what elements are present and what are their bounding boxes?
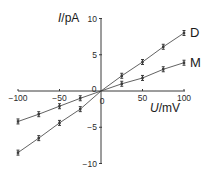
data-point: [183, 32, 185, 34]
x-axis-label: U/mV: [150, 101, 180, 115]
data-point: [162, 68, 164, 70]
x-tick-label: −100: [8, 93, 27, 103]
iv-chart: −100−5050100105−5−1000 DMI/pAU/mV: [0, 0, 206, 177]
data-point: [141, 77, 143, 79]
data-point: [58, 105, 60, 107]
x-tick-label: −50: [52, 93, 67, 103]
x-label-unit: /mV: [159, 101, 180, 115]
data-point: [17, 151, 19, 153]
data-point: [121, 75, 123, 77]
data-point: [162, 46, 164, 48]
data-point: [17, 120, 19, 122]
series-label-D: D: [190, 25, 199, 40]
y-tick-label: −5: [87, 122, 97, 132]
data-point: [141, 61, 143, 63]
series-label-M: M: [190, 55, 201, 70]
data-point: [79, 97, 81, 99]
y-axis-label: I/pA: [58, 11, 79, 25]
origin-label-x: 0: [100, 96, 105, 106]
y-tick-label: −10: [83, 159, 98, 169]
data-point: [58, 122, 60, 124]
data-point: [183, 62, 185, 64]
data-point: [121, 83, 123, 85]
y-tick-label: 5: [92, 50, 97, 60]
y-label-unit: /pA: [61, 11, 79, 25]
x-label-symbol: U: [150, 101, 159, 115]
y-tick-label: 10: [88, 14, 98, 24]
data-point: [38, 137, 40, 139]
data-point: [38, 113, 40, 115]
x-tick-label: 50: [138, 93, 148, 103]
data-point: [79, 108, 81, 110]
